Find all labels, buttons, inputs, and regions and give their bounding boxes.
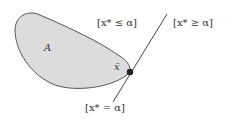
- set-label-a: A: [43, 42, 51, 53]
- halfspace-ge-label: [x* ≥ α]: [173, 17, 213, 28]
- tangent-point: [127, 69, 133, 75]
- diagram-canvas: A x̄ [x* ≤ α] [x* ≥ α] [x* = α]: [0, 0, 226, 121]
- halfspace-le-label: [x* ≤ α]: [97, 17, 137, 28]
- hyperplane-label: [x* = α]: [85, 102, 125, 113]
- point-label-xbar: x̄: [114, 61, 120, 72]
